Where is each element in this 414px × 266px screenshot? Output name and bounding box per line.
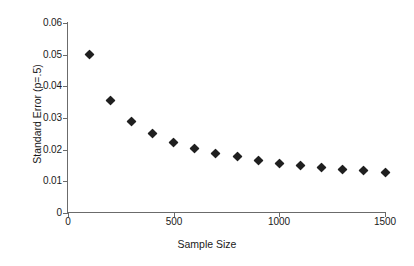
y-axis-tick-mark xyxy=(63,55,67,56)
x-axis-tick-label: 1500 xyxy=(355,216,414,227)
data-point-marker xyxy=(338,164,348,174)
y-axis-tick-mark xyxy=(63,23,67,24)
x-axis-line xyxy=(67,212,386,213)
y-axis-line xyxy=(67,22,68,214)
data-point-marker xyxy=(105,96,115,106)
x-axis-title: Sample Size xyxy=(0,238,414,250)
y-axis-tick-mark xyxy=(63,118,67,119)
data-point-marker xyxy=(232,152,242,162)
data-point-marker xyxy=(274,158,284,168)
data-point-marker xyxy=(126,117,136,127)
data-point-marker xyxy=(296,160,306,170)
data-point-marker xyxy=(190,143,200,153)
data-point-marker xyxy=(84,50,94,60)
y-axis-tick-mark xyxy=(63,213,67,214)
y-axis-title: Standard Error (p=.5) xyxy=(31,14,43,214)
data-point-marker xyxy=(359,166,369,176)
data-point-marker xyxy=(253,155,263,165)
data-point-marker xyxy=(148,129,158,139)
data-point-marker xyxy=(380,167,390,177)
x-axis-tick-label: 0 xyxy=(38,216,98,227)
x-axis-tick-label: 500 xyxy=(144,216,204,227)
y-axis-tick-mark xyxy=(63,181,67,182)
y-axis-tick-mark xyxy=(63,86,67,87)
data-point-marker xyxy=(211,148,221,158)
data-point-marker xyxy=(169,137,179,147)
y-axis-tick-mark xyxy=(63,150,67,151)
data-point-marker xyxy=(317,162,327,172)
standard-error-scatter-chart: 00.010.020.030.040.050.06 050010001500 S… xyxy=(0,0,414,266)
x-axis-tick-label: 1000 xyxy=(249,216,309,227)
